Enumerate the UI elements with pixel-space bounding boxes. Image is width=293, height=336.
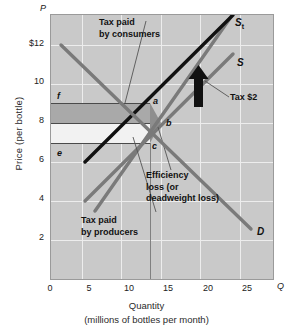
tax-producers-line-2: by producers bbox=[81, 227, 138, 239]
y-tick-8: 8 bbox=[18, 115, 44, 125]
efficiency-loss-line-2: loss (or bbox=[146, 182, 219, 194]
demand-layer bbox=[51, 15, 273, 279]
y-tick-12: $12 bbox=[18, 38, 44, 48]
axis-symbol-q: Q bbox=[277, 281, 284, 291]
point-label-c: c bbox=[152, 141, 157, 151]
y-tick-10: 10 bbox=[18, 76, 44, 86]
y-tick-6: 6 bbox=[18, 154, 44, 164]
annotation-tax-amount: Tax $2 bbox=[230, 92, 257, 104]
x-tick-15: 15 bbox=[159, 283, 177, 293]
tax-consumers-line-1: Tax paid bbox=[99, 17, 160, 29]
x-tick-10: 10 bbox=[120, 283, 138, 293]
efficiency-loss-line-1: Efficiency bbox=[146, 170, 219, 182]
curve-label-s: S bbox=[237, 57, 244, 68]
annotation-tax-paid-by-producers: Tax paid by producers bbox=[81, 215, 138, 238]
x-axis-subtitle: (millions of bottles per month) bbox=[0, 314, 293, 325]
x-tick-25: 25 bbox=[238, 283, 256, 293]
tax-consumers-line-2: by consumers bbox=[99, 29, 160, 41]
x-tick-0: 0 bbox=[41, 283, 59, 293]
x-tick-20: 20 bbox=[199, 283, 217, 293]
y-tick-4: 4 bbox=[18, 193, 44, 203]
chart-figure: P Q Price (per bottle) $12 10 8 6 4 2 0 … bbox=[0, 0, 293, 336]
curve-label-s-tax: St bbox=[235, 17, 244, 30]
annotation-tax-paid-by-consumers: Tax paid by consumers bbox=[99, 17, 160, 40]
y-tick-2: 2 bbox=[18, 232, 44, 242]
point-label-b: b bbox=[166, 118, 172, 128]
curve-label-s-tax-sub: t bbox=[242, 23, 244, 30]
plot-area: a b c f e St S D Tax paid by consumers T… bbox=[50, 14, 274, 280]
tax-producers-line-1: Tax paid bbox=[81, 215, 138, 227]
annotation-efficiency-loss: Efficiency loss (or deadweight loss) bbox=[146, 170, 219, 205]
curve-label-d: D bbox=[257, 226, 264, 237]
efficiency-loss-line-3: deadweight loss) bbox=[146, 193, 219, 205]
curve-label-s-tax-main: S bbox=[235, 17, 242, 28]
x-tick-5: 5 bbox=[80, 283, 98, 293]
marker-label-e: e bbox=[57, 148, 62, 158]
marker-label-f: f bbox=[57, 91, 60, 101]
x-axis-title: Quantity bbox=[0, 300, 293, 311]
y-axis-title: Price (per bottle) bbox=[13, 84, 24, 184]
axis-symbol-p: P bbox=[40, 3, 46, 13]
point-label-a: a bbox=[153, 96, 158, 106]
